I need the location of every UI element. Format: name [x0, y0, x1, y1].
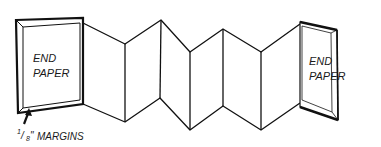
svg-text:MARGINS: MARGINS [37, 131, 84, 142]
margins-annotation: 1 / 8 " MARGINS [17, 128, 84, 142]
left-end-panel [16, 18, 83, 113]
right-panel-label-line1: END [309, 55, 332, 67]
right-panel-label-line2: PAPER [309, 70, 346, 82]
accordion-folds [83, 20, 300, 130]
left-panel-label-line1: END [33, 52, 56, 64]
left-panel-label-line2: PAPER [33, 67, 70, 79]
svg-text:": " [30, 130, 34, 141]
svg-text:/: / [20, 130, 25, 141]
accordion-book-diagram: END PAPER END PAPER 1 / 8 " MARGINS [0, 0, 381, 147]
